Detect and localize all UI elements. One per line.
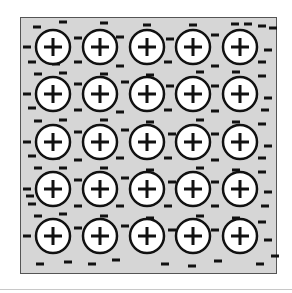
- positive-ion-icon: [223, 30, 257, 64]
- electron-minus-icon: [116, 36, 124, 39]
- electron-minus-icon: [121, 81, 129, 84]
- positive-ion-icon: [176, 219, 210, 253]
- electron-minus-icon: [211, 65, 219, 68]
- electron-minus-icon: [28, 61, 36, 64]
- electron-minus-icon: [166, 38, 174, 41]
- electron-minus-icon: [74, 109, 82, 112]
- electron-minus-icon: [196, 71, 204, 74]
- positive-ion-icon: [83, 125, 117, 159]
- positive-ion-icon: [130, 30, 164, 64]
- ion-lattice: [36, 30, 257, 253]
- positive-ion-icon: [36, 172, 70, 206]
- positive-ion-icon: [36, 30, 70, 64]
- positive-ion-icon: [130, 172, 164, 206]
- electron-minus-icon: [23, 46, 31, 49]
- electron-minus-icon: [211, 133, 219, 136]
- electron-minus-icon: [196, 167, 204, 170]
- electron-minus-icon: [211, 181, 219, 184]
- electron-minus-icon: [188, 265, 196, 268]
- electron-minus-icon: [211, 110, 219, 113]
- electron-minus-icon: [74, 205, 82, 208]
- electron-minus-icon: [116, 111, 124, 114]
- electron-minus-icon: [258, 61, 266, 64]
- electron-minus-icon: [232, 121, 240, 124]
- electron-minus-icon: [146, 121, 154, 124]
- electron-minus-icon: [59, 167, 67, 170]
- electron-minus-icon: [74, 227, 82, 230]
- electron-minus-icon: [28, 203, 36, 206]
- electron-minus-icon: [166, 85, 174, 88]
- electron-minus-icon: [59, 72, 67, 75]
- electron-minus-icon: [121, 225, 129, 228]
- electron-minus-icon: [258, 123, 266, 126]
- positive-ion-icon: [223, 172, 257, 206]
- electron-minus-icon: [196, 215, 204, 218]
- electron-minus-icon: [74, 159, 82, 162]
- positive-ion-icon: [36, 219, 70, 253]
- electron-minus-icon: [116, 205, 124, 208]
- electron-minus-icon: [74, 83, 82, 86]
- electron-minus-icon: [88, 263, 96, 266]
- electron-minus-icon: [264, 97, 272, 100]
- electron-minus-icon: [59, 21, 67, 24]
- electron-minus-icon: [100, 22, 108, 25]
- electron-minus-icon: [33, 26, 41, 29]
- positive-ion-icon: [36, 125, 70, 159]
- electron-minus-icon: [74, 37, 82, 40]
- electron-minus-icon: [74, 61, 82, 64]
- electron-minus-icon: [211, 159, 219, 162]
- electron-minus-icon: [244, 23, 252, 26]
- electron-minus-icon: [211, 34, 219, 37]
- electron-minus-icon: [59, 119, 67, 122]
- electron-minus-icon: [271, 255, 279, 258]
- electron-minus-icon: [74, 131, 82, 134]
- electron-minus-icon: [100, 215, 108, 218]
- electron-minus-icon: [164, 109, 172, 112]
- electron-minus-icon: [28, 107, 36, 110]
- electron-minus-icon: [34, 167, 42, 170]
- electron-minus-icon: [231, 23, 239, 26]
- electron-minus-icon: [168, 181, 176, 184]
- electron-minus-icon: [23, 235, 31, 238]
- electron-minus-icon: [211, 205, 219, 208]
- electron-minus-icon: [164, 157, 172, 160]
- positive-ion-icon: [130, 77, 164, 111]
- electron-minus-icon: [116, 157, 124, 160]
- electron-minus-icon: [189, 24, 197, 27]
- positive-ion-icon: [83, 172, 117, 206]
- electron-minus-icon: [264, 49, 272, 52]
- electron-minus-icon: [258, 75, 266, 78]
- electron-minus-icon: [64, 261, 72, 264]
- electron-minus-icon: [168, 229, 176, 232]
- electron-minus-icon: [264, 191, 272, 194]
- positive-ion-icon: [176, 77, 210, 111]
- electron-minus-icon: [258, 221, 266, 224]
- positive-ion-icon: [176, 125, 210, 159]
- positive-ion-icon: [223, 125, 257, 159]
- positive-ion-icon: [223, 219, 257, 253]
- bottom-divider: [0, 289, 292, 290]
- positive-ion-icon: [83, 30, 117, 64]
- electron-minus-icon: [34, 73, 42, 76]
- electron-minus-icon: [112, 259, 120, 262]
- electron-minus-icon: [23, 141, 31, 144]
- electron-minus-icon: [121, 129, 129, 132]
- electron-minus-icon: [232, 71, 240, 74]
- electron-minus-icon: [59, 213, 67, 216]
- electron-minus-icon: [74, 179, 82, 182]
- electron-minus-icon: [258, 171, 266, 174]
- electron-minus-icon: [143, 24, 151, 27]
- electron-minus-icon: [100, 73, 108, 76]
- electron-minus-icon: [261, 205, 269, 208]
- electron-minus-icon: [258, 157, 266, 160]
- electron-minus-icon: [256, 263, 264, 266]
- electron-minus-icon: [261, 109, 269, 112]
- positive-ion-icon: [176, 172, 210, 206]
- electron-minus-icon: [100, 167, 108, 170]
- electron-minus-icon: [168, 133, 176, 136]
- electron-minus-icon: [121, 177, 129, 180]
- electron-minus-icon: [34, 120, 42, 123]
- electron-minus-icon: [23, 188, 31, 191]
- positive-ion-icon: [130, 125, 164, 159]
- electron-minus-icon: [258, 25, 266, 28]
